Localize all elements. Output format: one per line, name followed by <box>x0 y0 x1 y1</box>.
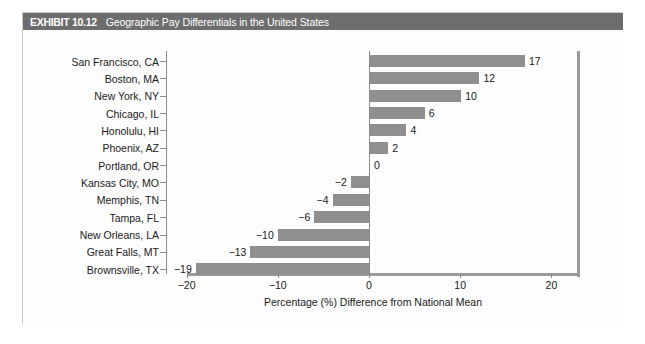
y-axis-tick <box>160 78 166 79</box>
plot-right-border <box>577 51 580 277</box>
y-axis-tick <box>160 61 166 62</box>
category-label: Phoenix, AZ <box>23 142 159 154</box>
bar <box>370 90 461 102</box>
x-axis-tick-label: −10 <box>253 279 303 291</box>
bar-value-label: −19 <box>23 263 192 275</box>
x-axis-title: Percentage (%) Difference from National … <box>166 296 580 308</box>
bar <box>370 107 425 119</box>
exhibit-title: Geographic Pay Differentials in the Unit… <box>106 16 329 28</box>
chart-plot-area: San Francisco, CABoston, MANew York, NYC… <box>23 30 623 324</box>
x-axis-tick <box>278 273 279 278</box>
y-axis-tick <box>160 113 166 114</box>
y-axis-tick <box>160 165 166 166</box>
x-axis-tick-label: 20 <box>526 279 576 291</box>
bar <box>370 55 525 67</box>
bar-value-label: −6 <box>23 211 310 223</box>
x-axis-tick <box>551 273 552 278</box>
bar-value-label: 17 <box>529 55 541 67</box>
category-label: Portland, OR <box>23 160 159 172</box>
category-label: New York, NY <box>23 90 159 102</box>
zero-baseline <box>369 51 370 274</box>
category-label: Chicago, IL <box>23 108 159 120</box>
bar <box>333 194 369 206</box>
bar-value-label: 2 <box>392 142 398 154</box>
x-axis-tick <box>460 273 461 278</box>
bar-value-label: 6 <box>429 107 435 119</box>
exhibit-header: EXHIBIT 10.12 Geographic Pay Differentia… <box>23 13 623 30</box>
bar <box>351 176 369 188</box>
category-label: Boston, MA <box>23 73 159 85</box>
category-label: San Francisco, CA <box>23 56 159 68</box>
x-axis-tick-label: 10 <box>435 279 485 291</box>
y-axis-tick <box>160 96 166 97</box>
bar <box>250 246 369 258</box>
bar-value-label: 4 <box>410 124 416 136</box>
exhibit-number: EXHIBIT 10.12 <box>30 16 97 28</box>
x-axis-tick-label: 0 <box>344 279 394 291</box>
exhibit-container: EXHIBIT 10.12 Geographic Pay Differentia… <box>22 12 622 324</box>
bar-value-label: 0 <box>374 159 380 171</box>
bar-value-label: −10 <box>23 229 274 241</box>
bar <box>278 229 369 241</box>
bar-value-label: 12 <box>483 72 495 84</box>
x-axis-tick <box>369 273 370 278</box>
y-axis-line <box>166 51 167 274</box>
bar <box>370 124 406 136</box>
x-axis-tick <box>187 273 188 278</box>
y-axis-tick <box>160 130 166 131</box>
bar <box>314 211 369 223</box>
y-axis-tick <box>160 148 166 149</box>
category-label: Honolulu, HI <box>23 125 159 137</box>
bar-value-label: −4 <box>23 194 329 206</box>
x-axis-tick-label: −20 <box>162 279 212 291</box>
bar <box>370 142 388 154</box>
bar <box>370 72 479 84</box>
bar-value-label: 10 <box>465 90 477 102</box>
bar <box>196 263 369 275</box>
bar-value-label: −13 <box>23 246 246 258</box>
bar-value-label: −2 <box>23 176 347 188</box>
